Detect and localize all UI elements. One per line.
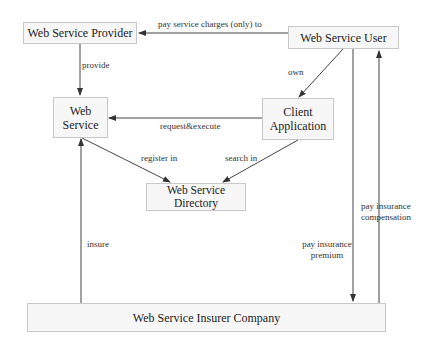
label-pay-insurance-compensation: pay insurance compensation [361, 201, 411, 223]
node-label-line1: Web [70, 104, 92, 118]
node-label: Web Service Insurer Company [133, 311, 280, 325]
node-web-service-provider: Web Service Provider [23, 22, 137, 44]
label-request-execute: request&execute [160, 121, 220, 132]
label-insure: insure [87, 239, 109, 250]
label-search-in: search in [225, 153, 257, 164]
label-line1: pay insurance [300, 239, 354, 250]
node-web-service: Web Service [53, 97, 108, 138]
node-client-application: Client Application [262, 98, 334, 140]
label-line2: premium [300, 250, 354, 261]
label-provide: provide [82, 60, 110, 71]
label-pay-insurance-premium: pay insurance premium [300, 239, 354, 261]
node-label-line1: Web Service [167, 184, 225, 197]
diagram-edges [0, 0, 430, 343]
label-register-in: register in [141, 153, 177, 164]
node-label-line2: Directory [174, 197, 218, 210]
node-web-service-user: Web Service User [288, 26, 399, 49]
node-web-service-directory: Web Service Directory [146, 183, 246, 211]
node-label: Web Service User [300, 31, 386, 45]
label-own: own [288, 67, 304, 78]
node-label: Web Service Provider [28, 26, 133, 40]
label-pay-service-charges: pay service charges (only) to [158, 19, 262, 30]
label-line2: compensation [361, 212, 411, 223]
node-label-line2: Service [63, 118, 99, 132]
edge-own [299, 49, 343, 97]
label-line1: pay insurance [361, 201, 411, 212]
node-web-service-insurer-company: Web Service Insurer Company [27, 303, 386, 332]
node-label-line2: Application [270, 119, 327, 133]
node-label-line1: Client [283, 105, 312, 119]
